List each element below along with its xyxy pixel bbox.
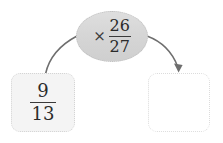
operator-to-output-arrow [147, 36, 178, 67]
input-fraction: 9 13 [30, 82, 56, 124]
input-fraction-denominator: 13 [32, 105, 55, 123]
input-cell: 9 13 [11, 73, 75, 132]
operator-node: × 26 27 [76, 11, 148, 62]
operator-fraction: 26 27 [109, 18, 131, 56]
multiply-icon: × [93, 29, 106, 45]
arrowhead-icon [174, 64, 183, 73]
operator-fraction-numerator: 26 [110, 18, 130, 34]
output-cell[interactable] [148, 73, 210, 132]
fraction-operation-diagram: × 26 27 9 13 [0, 0, 223, 143]
input-fraction-numerator: 9 [37, 82, 48, 100]
operator-fraction-denominator: 27 [110, 39, 130, 55]
input-to-operator-curve [46, 36, 78, 74]
